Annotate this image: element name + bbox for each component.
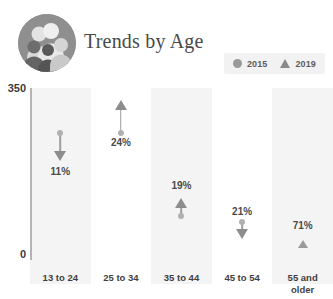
- category-label-35-to-44: 35 to 44: [151, 272, 212, 295]
- category-label-45-to-54: 45 to 54: [212, 272, 273, 295]
- marker-2015-circle: [57, 130, 63, 136]
- marker-2019-arrowhead-up: [175, 198, 187, 208]
- circle-marker-icon: [233, 59, 242, 68]
- category-label-25-to-34: 25 to 34: [91, 272, 152, 295]
- marker-2015-circle: [118, 130, 124, 136]
- triangle-marker-icon: [280, 59, 290, 68]
- plot-area: 350 0 11%24%19%21%71% 13 to 24 25 to 34 …: [0, 82, 333, 299]
- chart-header: Trends by Age 2015 2019: [0, 0, 333, 82]
- legend-item-2019[interactable]: 2019: [280, 59, 315, 69]
- trends-by-age-chart: Trends by Age 2015 2019 350 0 11%24%19%2…: [0, 0, 333, 299]
- legend-item-2015[interactable]: 2015: [233, 59, 267, 69]
- category-label-13-to-24: 13 to 24: [30, 272, 91, 295]
- marker-value-label: 21%: [232, 206, 252, 217]
- marker-2019-arrowhead-down: [54, 151, 66, 161]
- marker-value-label: 24%: [111, 137, 131, 148]
- y-axis-tick-max: 350: [0, 82, 26, 94]
- change-marker-13-to-24[interactable]: 11%: [30, 88, 91, 260]
- marker-2019-arrowhead-up: [298, 240, 308, 248]
- category-axis-labels: 13 to 24 25 to 34 35 to 44 45 to 54 55 a…: [30, 272, 333, 295]
- marker-value-label: 19%: [171, 180, 191, 191]
- chart-legend: 2015 2019: [224, 53, 325, 74]
- y-axis-tick-min: 0: [0, 248, 26, 260]
- marker-2015-circle: [178, 213, 184, 219]
- legend-label-2019: 2019: [295, 59, 315, 69]
- change-markers-layer: 11%24%19%21%71%: [30, 88, 333, 260]
- marker-stem: [120, 106, 122, 133]
- marker-2019-arrowhead-up: [115, 100, 127, 110]
- page-title: Trends by Age: [84, 30, 204, 53]
- change-marker-35-to-44[interactable]: 19%: [151, 88, 212, 260]
- change-marker-55-and-older[interactable]: 71%: [272, 88, 333, 260]
- marker-value-label: 11%: [51, 166, 70, 177]
- change-marker-25-to-34[interactable]: 24%: [91, 88, 152, 260]
- marker-value-label: 71%: [293, 220, 313, 231]
- marker-2015-circle: [239, 219, 245, 225]
- marker-2019-arrowhead-down: [236, 229, 248, 239]
- change-marker-45-to-54[interactable]: 21%: [212, 88, 273, 260]
- group-of-people-avatar-icon: [18, 14, 76, 72]
- legend-label-2015: 2015: [247, 59, 267, 69]
- category-label-55-and-older: 55 and older: [272, 272, 333, 295]
